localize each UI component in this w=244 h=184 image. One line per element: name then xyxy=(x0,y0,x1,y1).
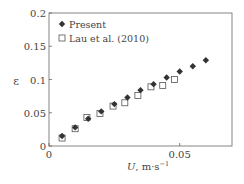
y-axis-label: ε xyxy=(13,75,19,88)
diamond-marker xyxy=(177,68,183,74)
data-points xyxy=(59,57,209,141)
square-marker xyxy=(160,82,166,88)
square-marker xyxy=(171,77,177,83)
diamond-marker xyxy=(59,21,65,27)
diamond-marker xyxy=(203,57,209,63)
square-marker xyxy=(122,100,128,106)
x-axis-ticks: 00.05 xyxy=(46,143,191,160)
scatter-chart: 00.050.10.150.2 00.05 ε U, m·s−1 Present… xyxy=(0,0,244,184)
square-marker xyxy=(59,35,65,41)
y-tick-label: 0.1 xyxy=(30,75,46,86)
y-tick-label: 0.05 xyxy=(24,108,46,119)
legend: PresentLau et al. (2010) xyxy=(59,19,149,44)
diamond-marker xyxy=(190,63,196,69)
x-axis-label: U, m·s−1 xyxy=(127,160,169,172)
x-tick-label: 0.05 xyxy=(169,149,191,160)
square-marker xyxy=(135,92,141,98)
y-tick-label: 0.15 xyxy=(24,41,46,52)
x-tick-label: 0 xyxy=(46,149,52,160)
legend-label: Present xyxy=(69,19,106,30)
y-tick-label: 0.2 xyxy=(30,8,46,19)
diamond-marker xyxy=(163,74,169,80)
legend-label: Lau et al. (2010) xyxy=(69,33,149,44)
y-axis-ticks: 00.050.10.150.2 xyxy=(24,8,52,152)
